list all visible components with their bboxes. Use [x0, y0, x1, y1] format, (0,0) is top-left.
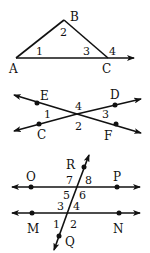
point-m [30, 211, 35, 216]
angle-label-6: 6 [79, 189, 86, 202]
angle-label-3: 3 [102, 108, 109, 121]
figure-triangle: A B C 1 2 3 4 [8, 10, 134, 76]
point-p [115, 185, 120, 190]
angle-label-2: 2 [60, 26, 67, 39]
point-label-q: Q [65, 235, 75, 249]
angle-label-2: 2 [70, 218, 77, 231]
point-label-e: E [40, 89, 49, 103]
angle-label-7: 7 [66, 174, 73, 187]
point-q [57, 234, 62, 239]
angle-label-1: 1 [36, 45, 43, 58]
point-label-f: F [104, 129, 112, 143]
figure-intersecting-lines: E D C F 1 2 3 4 [14, 88, 141, 143]
angle-label-4: 4 [75, 100, 82, 113]
point-label-p: P [113, 170, 121, 184]
angle-label-4: 4 [109, 45, 116, 58]
point-r [82, 165, 87, 170]
angle-label-8: 8 [85, 174, 92, 187]
point-label-d: D [110, 88, 120, 102]
point-label-n: N [113, 222, 124, 236]
point-o [29, 185, 34, 190]
point-e [35, 101, 40, 106]
angle-label-1: 1 [53, 218, 60, 231]
angle-label-1: 1 [44, 108, 51, 121]
point-label-c: C [102, 62, 111, 76]
point-label-o: O [26, 170, 36, 184]
angle-label-5: 5 [63, 189, 70, 202]
point-d [113, 103, 118, 108]
geometry-diagrams: A B C 1 2 3 4 E D C F 1 2 3 4 [0, 0, 150, 253]
point-f [114, 122, 119, 127]
figure-parallel-lines-transversal: R O P M N Q 1 2 3 4 5 6 7 8 [12, 155, 140, 250]
point-label-a: A [8, 62, 18, 76]
angle-label-3: 3 [83, 45, 90, 58]
point-label-c2: C [37, 128, 46, 142]
angle-label-2: 2 [75, 120, 82, 133]
point-label-b: B [70, 10, 79, 24]
point-c [37, 122, 42, 127]
point-label-r: R [66, 158, 76, 172]
ray-toward-d [77, 99, 141, 114]
point-n [117, 211, 122, 216]
point-label-m: M [27, 222, 39, 236]
